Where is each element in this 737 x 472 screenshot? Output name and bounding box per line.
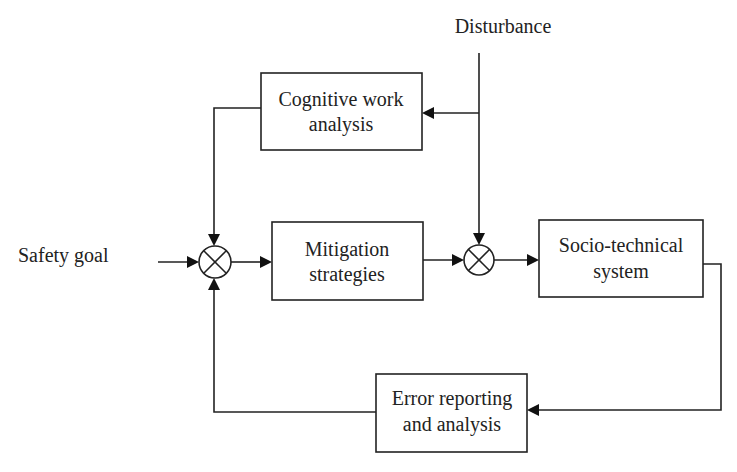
arrowhead-junction1-top: [208, 234, 220, 246]
cognitive-work-analysis-block: Cognitive work analysis: [261, 73, 422, 150]
summing-junction-1: [199, 246, 231, 278]
arrowhead-junction2-top: [473, 233, 485, 245]
arrowhead-junction1-bottom: [208, 278, 220, 290]
cwa-line1: Cognitive work: [279, 88, 404, 111]
arrowhead-junction2-left: [452, 254, 464, 266]
mitigation-line1: Mitigation: [305, 238, 389, 261]
error-line1: Error reporting: [392, 387, 513, 410]
cwa-to-junction1-line: [214, 108, 261, 240]
error-reporting-block: Error reporting and analysis: [376, 374, 527, 452]
disturbance-label: Disturbance: [455, 15, 552, 37]
mitigation-line2: strategies: [309, 263, 385, 286]
block-diagram: Disturbance Safety goal Cognitive work a…: [0, 0, 737, 472]
cwa-line2: analysis: [309, 113, 374, 136]
socio-line2: system: [593, 260, 649, 283]
arrowhead-socio: [527, 254, 539, 266]
socio-technical-system-block: Socio-technical system: [539, 220, 703, 297]
arrowhead-junction1-left: [187, 256, 199, 268]
diagram-canvas: Disturbance Safety goal Cognitive work a…: [0, 0, 737, 472]
arrowhead-cwa: [422, 107, 434, 119]
arrowhead-mitigation: [260, 256, 272, 268]
mitigation-strategies-block: Mitigation strategies: [272, 222, 423, 300]
arrowhead-error: [527, 404, 539, 416]
error-feedback-line: [214, 284, 376, 412]
safety-goal-label: Safety goal: [18, 244, 109, 267]
socio-line1: Socio-technical: [559, 234, 684, 256]
error-line2: and analysis: [403, 413, 502, 436]
summing-junction-2: [464, 245, 494, 275]
